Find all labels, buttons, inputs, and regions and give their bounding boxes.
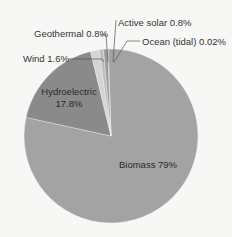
active-solar-label: Active solar 0.8% <box>118 17 192 28</box>
pie-chart: Wind 1.6% Geothermal 0.8% Active solar 0… <box>0 0 232 237</box>
hydroelectric-value: 17.8% <box>56 98 83 109</box>
ocean-label: Ocean (tidal) 0.02% <box>142 36 227 47</box>
hydroelectric-label: Hydroelectric <box>41 86 97 97</box>
wind-label: Wind 1.6% <box>23 53 69 64</box>
biomass-label: Biomass 79% <box>119 159 178 170</box>
geothermal-label: Geothermal 0.8% <box>34 28 108 39</box>
pie-slices <box>24 49 198 223</box>
